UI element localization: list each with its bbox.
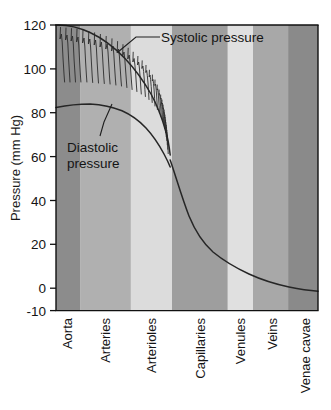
y-tick-label-100: 100 xyxy=(23,62,46,77)
diastolic-annotation-label-line2: pressure xyxy=(67,156,120,171)
y-axis-title: Pressure (mm Hg) xyxy=(8,115,23,221)
x-category-label-arterioles: Arterioles xyxy=(144,318,159,373)
y-tick-label-neg10: -10 xyxy=(26,304,46,319)
x-category-label-venae-cavae: Venae cavae xyxy=(298,318,313,393)
y-tick-label-80: 80 xyxy=(31,106,46,121)
x-category-label-capillaries: Capillaries xyxy=(193,318,208,379)
x-category-label-arteries: Arteries xyxy=(98,318,113,363)
x-category-label-veins: Veins xyxy=(265,318,280,350)
band-veins xyxy=(253,25,288,310)
y-tick-label-0: 0 xyxy=(38,281,46,296)
x-category-label-venules: Venules xyxy=(233,318,248,365)
y-tick-label-20: 20 xyxy=(31,237,46,252)
blood-pressure-chart: Systolic pressure Diastolic pressure 120… xyxy=(0,0,331,410)
band-venules xyxy=(228,25,253,310)
x-category-label-aorta: Aorta xyxy=(60,317,75,349)
band-arterioles xyxy=(131,25,172,310)
band-capillaries xyxy=(172,25,228,310)
y-tick-label-120: 120 xyxy=(23,18,46,33)
y-tick-label-60: 60 xyxy=(31,150,46,165)
diastolic-annotation-label-line1: Diastolic xyxy=(67,140,118,155)
systolic-annotation-label: Systolic pressure xyxy=(161,30,264,45)
band-venae-cavae xyxy=(288,25,318,310)
chart-svg: Systolic pressure Diastolic pressure 120… xyxy=(0,0,331,410)
y-tick-label-40: 40 xyxy=(31,194,46,209)
